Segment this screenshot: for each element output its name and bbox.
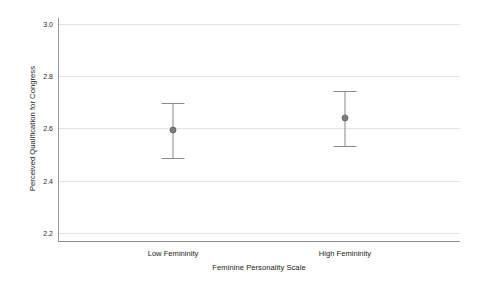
x-tick-label-high-femininity: High Femininity xyxy=(319,249,371,258)
errorbar-lower-cap xyxy=(334,146,357,147)
y-tick-label: 2.4 xyxy=(22,178,53,185)
y-tick-label: 2.2 xyxy=(22,230,53,237)
gridline xyxy=(59,24,460,25)
data-point-marker xyxy=(342,115,349,122)
x-tick-label-low-femininity: Low Femininity xyxy=(148,249,199,258)
y-axis-line xyxy=(58,18,59,242)
x-axis-title: Feminine Personality Scale xyxy=(58,263,460,272)
data-point-marker xyxy=(170,127,177,134)
gridline xyxy=(59,128,460,129)
chart-figure: Perceived Qualification for Congress 3.0… xyxy=(0,0,486,281)
errorbar-lower-cap xyxy=(162,158,185,159)
y-tick-label: 2.6 xyxy=(22,125,53,132)
y-tick-label: 3.0 xyxy=(22,21,53,28)
gridline xyxy=(59,233,460,234)
gridline xyxy=(59,181,460,182)
y-tick-label: 2.8 xyxy=(22,73,53,80)
y-axis-tick-labels: 3.0 2.8 2.6 2.4 2.2 xyxy=(22,0,53,281)
x-axis-line xyxy=(58,241,460,242)
gridline xyxy=(59,76,460,77)
